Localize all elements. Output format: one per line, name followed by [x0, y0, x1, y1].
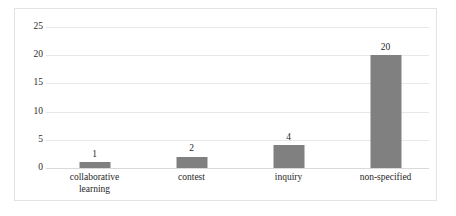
- bar-value-inquiry: 4: [240, 133, 337, 143]
- bar-group-non-specified[interactable]: 20: [337, 8, 434, 168]
- bar-collaborative-learning[interactable]: [79, 162, 110, 168]
- bar-chart-figure: 0 5 10 15 20 25 1 2 4: [14, 8, 437, 201]
- bar-value-non-specified: 20: [337, 43, 434, 53]
- x-tick-label-collaborative-learning: collaborative learning: [46, 172, 143, 195]
- x-tick-label-inquiry: inquiry: [240, 172, 337, 184]
- x-tick-label-contest: contest: [143, 172, 240, 184]
- x-axis: collaborative learning contest inquiry n…: [46, 172, 429, 202]
- bar-group-contest[interactable]: 2: [143, 8, 240, 168]
- bar-inquiry[interactable]: [273, 145, 304, 168]
- bar-group-inquiry[interactable]: 4: [240, 8, 337, 168]
- y-tick-label-20: 20: [17, 50, 43, 60]
- y-axis: 0 5 10 15 20 25: [15, 9, 43, 169]
- y-tick-label-5: 5: [17, 135, 43, 145]
- y-tick-label-25: 25: [17, 22, 43, 32]
- y-tick-label-0: 0: [17, 163, 43, 173]
- bar-group-collaborative-learning[interactable]: 1: [46, 8, 143, 168]
- bars-layer: 1 2 4 20: [46, 9, 429, 169]
- bar-non-specified[interactable]: [370, 55, 401, 168]
- bar-contest[interactable]: [176, 157, 207, 168]
- bar-value-collaborative-learning: 1: [46, 150, 143, 160]
- x-tick-label-non-specified: non-specified: [337, 172, 434, 184]
- y-tick-label-10: 10: [17, 107, 43, 117]
- bar-value-contest: 2: [143, 144, 240, 154]
- y-tick-label-15: 15: [17, 79, 43, 89]
- plot-area: 1 2 4 20: [46, 9, 429, 169]
